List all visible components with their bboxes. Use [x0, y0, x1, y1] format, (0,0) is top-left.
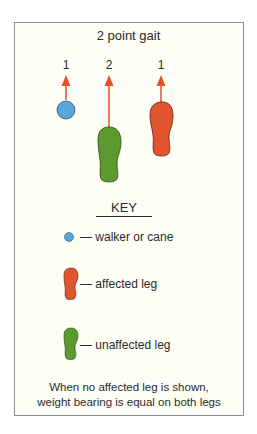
unaffected-foot-icon	[98, 127, 121, 182]
legend-label-unaffected-leg: — unaffected leg	[80, 338, 171, 352]
footer-line-2: weight bearing is equal on both legs	[14, 395, 244, 410]
footer-line-1: When no affected leg is shown,	[14, 380, 244, 395]
arrow-up-icon	[105, 75, 114, 127]
arrow-up-icon	[157, 75, 166, 103]
legend-affected-foot-icon	[64, 268, 78, 300]
footer-note: When no affected leg is shown, weight be…	[14, 380, 244, 410]
cane-icon	[57, 101, 75, 119]
affected-foot-icon	[150, 102, 173, 156]
key-heading: KEY	[96, 200, 152, 217]
legend-label-cane: — walker or cane	[80, 230, 173, 244]
arrow-up-icon	[62, 75, 71, 100]
legend-label-affected-leg: — affected leg	[80, 277, 157, 291]
legend-cane-icon	[65, 233, 74, 242]
legend-unaffected-foot-icon	[64, 328, 78, 360]
gait-diagram	[0, 0, 257, 434]
